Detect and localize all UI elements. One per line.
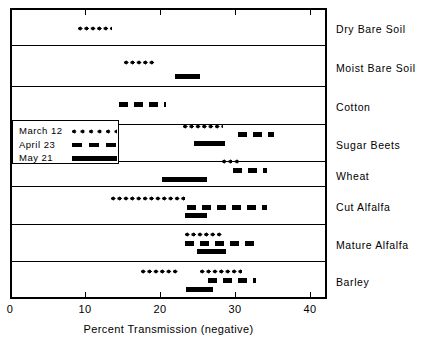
data-mark-solid <box>186 287 213 292</box>
axis-tick <box>85 8 86 15</box>
row-divider <box>10 45 327 46</box>
data-mark-dashed <box>119 102 166 107</box>
data-mark-dotted <box>185 232 222 237</box>
row-label-cotton: Cotton <box>336 101 371 113</box>
data-mark-solid <box>162 177 207 182</box>
data-mark-dashed <box>187 205 267 210</box>
data-mark-solid <box>197 249 226 254</box>
axis-tick-label: 40 <box>303 303 316 315</box>
legend-swatch-dashed <box>72 143 117 148</box>
row-label-wheat: Wheat <box>336 170 369 182</box>
row-label-barley: Barley <box>336 276 369 288</box>
chart-figure: 010203040 Percent Transmission (negative… <box>0 0 436 355</box>
axis-tick-label: 30 <box>228 303 241 315</box>
axis-tick-label: 0 <box>7 303 14 315</box>
legend-entry: March 12 <box>19 125 118 137</box>
row-label-moist-bare-soil: Moist Bare Soil <box>336 62 416 74</box>
legend-swatch-solid <box>72 156 117 161</box>
row-label-cut-alfalfa: Cut Alfalfa <box>336 201 390 213</box>
axis-tick <box>310 8 311 15</box>
data-mark-dotted <box>111 196 185 201</box>
axis-tick-label: 20 <box>153 303 166 315</box>
row-label-sugar-beets: Sugar Beets <box>336 139 400 151</box>
legend-entry: May 21 <box>19 152 118 164</box>
axis-tick <box>235 8 236 15</box>
data-mark-solid <box>175 74 200 79</box>
data-mark-dotted <box>200 269 242 274</box>
axis-tick <box>160 8 161 15</box>
data-mark-dashed <box>233 168 267 173</box>
axis-tick <box>10 8 11 15</box>
row-divider <box>10 186 327 187</box>
data-mark-dashed <box>208 278 256 283</box>
axis-tick <box>310 292 311 299</box>
data-mark-dotted <box>141 269 179 274</box>
row-divider <box>10 224 327 225</box>
row-label-dry-bare-soil: Dry Bare Soil <box>336 23 406 35</box>
legend-label: May 21 <box>19 152 53 164</box>
axis-tick <box>160 292 161 299</box>
data-mark-dashed <box>185 241 260 246</box>
legend: March 12April 23May 21 <box>12 120 119 164</box>
data-mark-dotted <box>222 159 241 164</box>
data-mark-dotted <box>124 60 155 65</box>
legend-label: March 12 <box>19 125 63 137</box>
row-divider <box>10 261 327 262</box>
legend-entry: April 23 <box>19 139 118 151</box>
data-mark-dotted <box>183 124 223 129</box>
data-mark-solid <box>185 213 207 218</box>
axis-tick <box>235 292 236 299</box>
axis-tick <box>85 292 86 299</box>
axis-tick-label: 10 <box>78 303 91 315</box>
data-mark-dotted <box>78 26 112 31</box>
data-mark-solid <box>194 141 225 146</box>
legend-label: April 23 <box>19 139 55 151</box>
axis-tick <box>10 292 11 299</box>
legend-swatch-dotted <box>72 129 117 134</box>
x-axis-title: Percent Transmission (negative) <box>10 323 327 335</box>
row-divider <box>10 86 327 87</box>
row-label-mature-alfalfa: Mature Alfalfa <box>336 239 409 251</box>
data-mark-dashed <box>238 132 274 137</box>
